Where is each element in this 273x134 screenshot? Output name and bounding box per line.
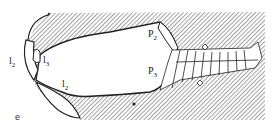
- label-P3: P3: [148, 66, 157, 79]
- l3-piece: [33, 49, 40, 62]
- label-l2-left: l2: [9, 56, 15, 69]
- label-l2-lower: l2: [62, 79, 68, 92]
- specimen-drawing: [0, 0, 273, 134]
- panel-label: e: [15, 112, 20, 122]
- label-l3: l3: [43, 55, 49, 68]
- label-P2: P2: [148, 29, 157, 42]
